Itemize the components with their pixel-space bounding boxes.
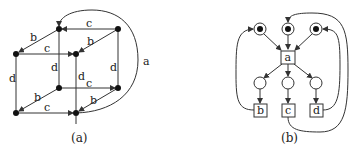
- arc-b-to-p1: [236, 29, 254, 110]
- arc-a-to-q1: [264, 64, 282, 78]
- figure: c b c b d d d d c b c b a (a): [0, 0, 356, 154]
- label-c-top-back: c: [86, 17, 92, 30]
- panel-a-cube-graph: c b c b d d d d c b c b a (a): [9, 10, 150, 145]
- token-3: [313, 26, 319, 32]
- transition-b-label: b: [257, 104, 264, 117]
- arc-d-to-p3: [323, 29, 340, 110]
- label-d-front-right: d: [78, 70, 85, 83]
- node-bottom-front-right: [73, 110, 79, 116]
- token-2: [285, 26, 291, 32]
- node-top-back-right: [115, 26, 121, 32]
- node-bottom-back-right: [115, 85, 121, 91]
- caption-b: (b): [281, 131, 298, 145]
- node-bottom-back-left: [56, 85, 62, 91]
- node-top-back-left: [56, 26, 62, 32]
- token-1: [257, 26, 263, 32]
- arc-p3-to-a: [295, 34, 312, 50]
- label-c-bottom-front: c: [44, 101, 50, 114]
- node-top-front-left: [13, 51, 19, 57]
- edge-a-loop: [59, 10, 138, 113]
- edge-b-top-left: [19, 29, 59, 52]
- edge-b-bottom-right: [79, 88, 118, 111]
- arc-p1-to-a: [264, 34, 281, 50]
- label-b-top-left: b: [30, 31, 37, 44]
- node-bottom-front-left: [13, 110, 19, 116]
- panel-b-petri-net: a b c d (b): [236, 13, 348, 145]
- transition-c-label: c: [285, 104, 291, 117]
- label-c-top-front: c: [44, 42, 50, 55]
- label-c-bottom-back: c: [86, 77, 92, 90]
- caption-a: (a): [71, 131, 88, 145]
- edge-b-top-right: [79, 29, 118, 52]
- label-a-loop: a: [143, 55, 150, 68]
- place-empty-2: [282, 77, 294, 89]
- place-empty-3: [310, 77, 322, 89]
- transition-a-label: a: [285, 51, 292, 64]
- label-b-bottom-right: b: [90, 94, 97, 107]
- node-top-front-right: [73, 51, 79, 57]
- arc-a-to-q3: [294, 64, 312, 78]
- label-d-left-front: d: [9, 72, 16, 85]
- label-d-back-right: d: [110, 61, 117, 74]
- label-b-top-right: b: [87, 35, 94, 48]
- label-d-back-left: d: [51, 61, 58, 74]
- place-empty-1: [254, 77, 266, 89]
- transition-d-label: d: [313, 104, 320, 117]
- label-b-bottom-left: b: [34, 91, 41, 104]
